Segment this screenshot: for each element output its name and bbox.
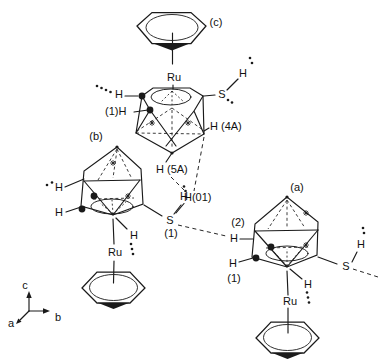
axis-indicator: c b a bbox=[8, 279, 61, 329]
hbond-sa-truncated bbox=[353, 269, 378, 277]
b-axis-label: b bbox=[55, 311, 61, 323]
benzene-ring-b bbox=[82, 261, 145, 309]
hydrogen-bond-bridge: H(01) bbox=[171, 137, 226, 236]
cage-a bbox=[252, 195, 318, 267]
cage-c bbox=[136, 85, 204, 155]
figure-canvas: (c) Ru H (1)H H (4A) bbox=[0, 0, 378, 364]
c-axis-label: c bbox=[22, 279, 28, 291]
unit-b-label: (b) bbox=[89, 130, 102, 142]
cage-b bbox=[79, 145, 143, 215]
b-axis-arrowhead bbox=[43, 308, 50, 313]
cage-b-carbon-dot-2 bbox=[79, 206, 86, 213]
s-label-b: S bbox=[166, 214, 173, 226]
unit-b: (b) H H H S (1) bbox=[46, 130, 188, 309]
cage-a-carbon-dot-1 bbox=[268, 244, 275, 251]
unit-a: (a) (2) H H (1) H S bbox=[227, 181, 378, 359]
h-ru-b: H bbox=[130, 229, 138, 241]
truncated-contact-dots-c-left bbox=[96, 85, 112, 94]
benzene-c-wedge bbox=[152, 43, 191, 51]
h-5a-label: H (5A) bbox=[156, 163, 188, 175]
unit-c-label: (c) bbox=[210, 16, 223, 28]
crystal-structure-figure: (c) Ru H (1)H H (4A) bbox=[0, 0, 378, 364]
benzene-b-wedge bbox=[97, 303, 130, 310]
thiol-group-b: S (1) H bbox=[144, 185, 188, 239]
thiol-group-a: S H bbox=[318, 227, 378, 277]
c-axis-arrowhead bbox=[26, 291, 31, 298]
h-c1-label: (1)H bbox=[105, 105, 126, 117]
ru-label-c: Ru bbox=[167, 71, 181, 83]
h-lower-b: H bbox=[55, 206, 63, 218]
unit-a-label: (a) bbox=[290, 181, 303, 193]
h2-index-a: (2) bbox=[231, 216, 244, 228]
benzene-a-wedge bbox=[271, 353, 304, 360]
hbond-h4a-h01 bbox=[194, 137, 204, 191]
cage-c-carbon-dot-1 bbox=[139, 93, 146, 100]
bond-h01-s1 bbox=[176, 204, 184, 214]
ru-label-a: Ru bbox=[283, 295, 297, 307]
a-axis-label: a bbox=[8, 317, 15, 329]
sh-hydrogen-c: H bbox=[239, 67, 247, 79]
benzene-ring-a bbox=[256, 308, 319, 359]
ru-label-b: Ru bbox=[108, 246, 122, 258]
cage-b-star-1 bbox=[110, 160, 116, 166]
h-left-c: H bbox=[115, 88, 123, 100]
h-ru-a: H bbox=[304, 278, 312, 290]
s-label-c: S bbox=[218, 88, 225, 100]
hbond-s1-h2 bbox=[178, 225, 226, 236]
h1-label-a: H bbox=[229, 257, 237, 269]
h01-label: H(01) bbox=[184, 191, 212, 203]
cage-b-carbon-dot-1 bbox=[91, 193, 98, 200]
hbond-h5a-h01 bbox=[171, 177, 184, 190]
unit-c: (c) Ru H (1)H H (4A) bbox=[96, 13, 254, 176]
s-index-b: (1) bbox=[164, 227, 177, 239]
s-label-a: S bbox=[342, 260, 349, 272]
benzene-ring-c bbox=[137, 13, 206, 65]
h-upper-b: H bbox=[55, 181, 63, 193]
h2-label-a: H bbox=[230, 232, 238, 244]
h1-index-a: (1) bbox=[227, 272, 240, 284]
cage-a-carbon-dot-2 bbox=[253, 255, 260, 262]
cage-c-star-1 bbox=[149, 120, 155, 126]
thiol-group-c: S H bbox=[204, 57, 253, 104]
sh-hydrogen-a: H bbox=[357, 238, 365, 250]
h-4a-label: H (4A) bbox=[210, 120, 242, 132]
